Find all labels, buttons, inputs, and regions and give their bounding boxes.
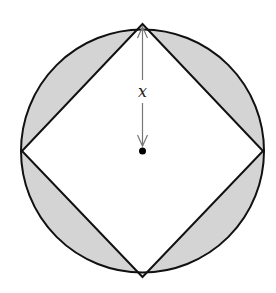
inscribed-square-diagram: x	[0, 0, 276, 293]
center-point	[139, 148, 146, 155]
radius-label: x	[138, 82, 147, 101]
